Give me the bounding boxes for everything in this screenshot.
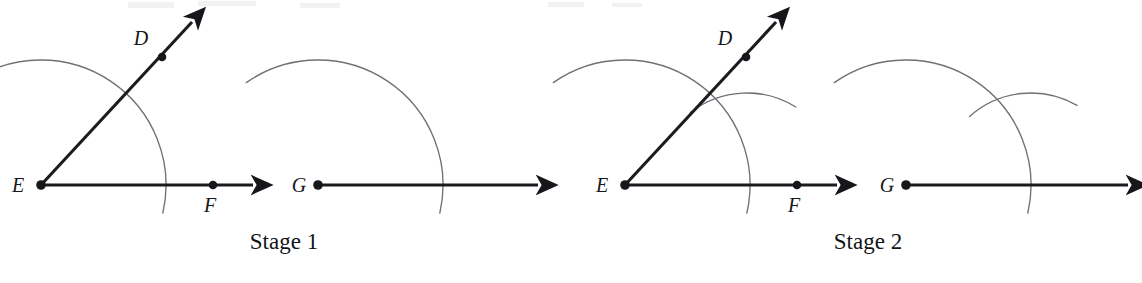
label-point-g-stage2: G	[880, 174, 895, 196]
caption-stage-1: Stage 1	[250, 229, 318, 254]
caption-stage-2: Stage 2	[834, 229, 902, 254]
vertex-dot-s1-p1	[36, 180, 46, 190]
label-point-f-stage2: F	[787, 194, 801, 216]
label-point-f-stage1: F	[203, 194, 217, 216]
point-dot-upper-s2-p1	[742, 53, 751, 62]
vertex-dot-s1-p2	[313, 180, 323, 190]
point-dot-lower-s1-p1	[209, 181, 218, 190]
label-point-d-stage2: D	[717, 27, 733, 49]
label-point-g-stage1: G	[292, 174, 307, 196]
label-point-e-stage1: E	[11, 174, 24, 196]
label-point-d-stage1: D	[133, 27, 149, 49]
label-point-e-stage2: E	[595, 174, 608, 196]
point-dot-upper-s1-p1	[158, 53, 167, 62]
point-dot-lower-s2-p1	[793, 181, 802, 190]
vertex-dot-s2-p2	[901, 180, 911, 190]
construction-figure: E D F G Stage 1 E D F G Stage 2	[0, 0, 1142, 283]
vertex-dot-s2-p1	[620, 180, 630, 190]
